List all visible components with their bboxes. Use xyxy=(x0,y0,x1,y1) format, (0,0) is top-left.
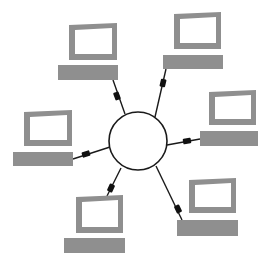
screen xyxy=(30,115,67,140)
keyboard-base-icon xyxy=(177,220,238,236)
screen xyxy=(215,95,251,119)
screen xyxy=(82,200,118,227)
screen xyxy=(180,17,216,43)
keyboard-base-icon xyxy=(200,131,258,146)
keyboard-base-icon xyxy=(58,65,118,80)
screen xyxy=(195,183,231,207)
keyboard-base-icon xyxy=(13,152,73,166)
hub-circle xyxy=(109,112,167,170)
keyboard-base-icon xyxy=(64,238,125,253)
star-network-diagram xyxy=(0,0,273,263)
keyboard-base-icon xyxy=(163,55,223,69)
screen xyxy=(75,28,112,54)
